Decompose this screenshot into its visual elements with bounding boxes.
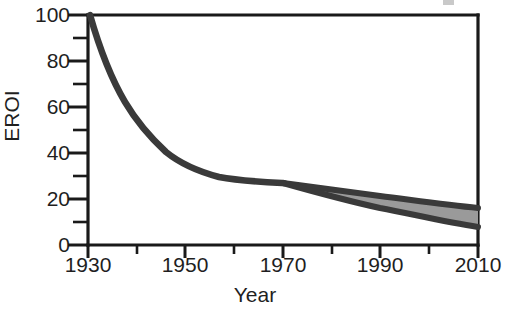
x-axis-major-ticks: [88, 245, 478, 258]
cropped-mark: [443, 0, 454, 5]
eroi-trend-line: [90, 15, 283, 183]
y-axis-minor-ticks: [73, 38, 88, 222]
